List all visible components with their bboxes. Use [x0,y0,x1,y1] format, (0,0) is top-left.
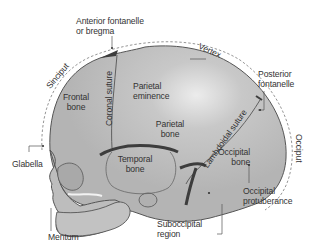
label-text: bone [56,102,96,112]
label-text: Anterior fontanelle [76,16,144,26]
label-text: Parietal [133,81,169,91]
label-text: region [157,229,202,239]
label-occiput: Occiput [294,134,304,162]
fetal-skull-diagram: Anterior fontanelle or bregma Sinciput V… [0,0,310,252]
label-text: Occipital [243,186,292,196]
label-temporal-bone: Temporal bone [112,154,158,174]
label-text: or bregma [76,26,144,36]
label-text: Frontal [56,92,96,102]
label-text: bone [150,129,190,139]
label-mentum: Mentum [48,232,78,242]
label-occipital-bone: Occipital bone [218,147,250,167]
label-parietal-eminence: Parietal eminence [133,81,169,101]
label-glabella: Glabella [12,159,43,169]
label-text: Posterior [258,69,294,79]
label-text: Parietal [150,119,190,129]
label-frontal-bone: Frontal bone [56,92,96,112]
label-suboccipital-region: Suboccipital region [157,219,202,239]
label-parietal-bone: Parietal bone [150,119,190,139]
label-text: Occipital [218,147,250,157]
label-text: bone [218,157,250,167]
label-occipital-protuberance: Occipital protuberance [243,186,292,206]
label-text: eminence [133,91,169,101]
label-text: fontanelle [258,79,294,89]
label-text: bone [112,164,158,174]
label-text: Suboccipital [157,219,202,229]
label-posterior-fontanelle: Posterior fontanelle [258,69,294,89]
label-text: Temporal [112,154,158,164]
mastoid [139,193,157,207]
label-coronal-suture: Coronal suture [104,71,114,126]
label-text: protuberance [243,196,292,206]
label-anterior-fontanelle: Anterior fontanelle or bregma [76,16,144,36]
